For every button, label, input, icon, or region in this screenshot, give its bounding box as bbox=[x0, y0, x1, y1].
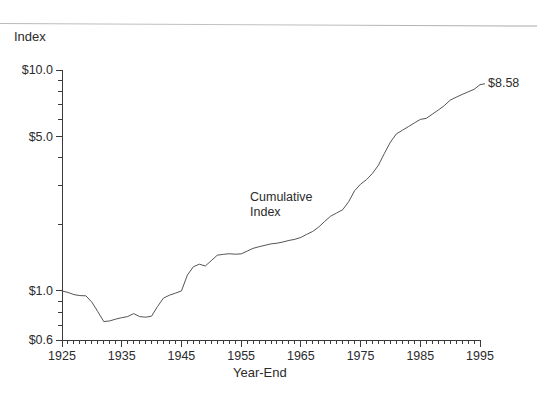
x-tick-label: 1945 bbox=[151, 350, 211, 363]
chart-figure: Index Year-End Cumulative Index $8.58 $0… bbox=[0, 0, 537, 401]
y-tick-label: $0.6 bbox=[0, 334, 53, 347]
cumulative-index-line bbox=[62, 85, 480, 322]
y-tick-label: $1.0 bbox=[0, 285, 53, 298]
data-series-layer bbox=[62, 85, 480, 322]
x-tick-label: 1975 bbox=[331, 350, 391, 363]
chart-plot-area bbox=[0, 0, 537, 401]
y-axis bbox=[56, 70, 62, 340]
x-axis bbox=[62, 340, 480, 347]
x-tick-label: 1935 bbox=[92, 350, 152, 363]
x-tick-label: 1965 bbox=[271, 350, 331, 363]
endpoint-leader bbox=[480, 84, 485, 85]
x-tick-label: 1985 bbox=[390, 350, 450, 363]
x-tick-label: 1955 bbox=[211, 350, 271, 363]
endpoint-leader-line bbox=[480, 84, 485, 85]
y-tick-label: $5.0 bbox=[0, 131, 53, 144]
x-tick-label: 1995 bbox=[450, 350, 510, 363]
y-tick-label: $10.0 bbox=[0, 64, 53, 77]
x-tick-label: 1925 bbox=[32, 350, 92, 363]
